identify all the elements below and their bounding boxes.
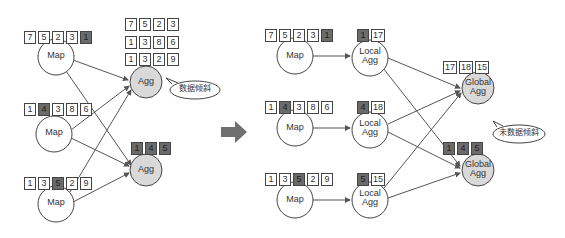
label-line: Agg	[461, 169, 495, 178]
count-cell: 15	[371, 173, 385, 186]
key-cell: 5	[357, 173, 369, 186]
label-line: Agg	[352, 198, 388, 207]
record-cell: 3	[293, 101, 305, 114]
after-map-1-label: Map	[277, 51, 313, 60]
label-line: Agg	[352, 56, 388, 65]
before-map-1-records: 7 5 2 3 1	[24, 31, 92, 44]
record-cell: 2	[153, 18, 165, 31]
no-skew-callout-text: 未数据倾斜	[495, 129, 543, 137]
key-cell: 5	[471, 142, 483, 155]
record-cell: 1	[265, 173, 277, 186]
before-map-2-label: Map	[36, 128, 72, 137]
record-cell-skewed: 1	[131, 142, 143, 155]
record-cell: 9	[167, 53, 179, 66]
after-map-1-records: 7 5 2 3 1	[265, 29, 333, 42]
record-cell: 8	[66, 103, 78, 116]
record-cell: 3	[279, 173, 291, 186]
label-line: Agg	[352, 128, 388, 137]
after-map-3-records: 1 3 5 2 9	[265, 173, 333, 186]
key-cell: 1	[357, 29, 369, 42]
before-agg-1-row-3: 1 3 2 9	[125, 53, 179, 66]
local-agg-3-label: LocalAgg	[352, 189, 388, 208]
count-cell: 17	[371, 29, 385, 42]
record-cell: 3	[38, 177, 50, 190]
key-cell: 4	[457, 142, 469, 155]
record-cell-skewed: 5	[159, 142, 171, 155]
count-cell: 15	[475, 61, 489, 74]
record-cell: 1	[24, 177, 36, 190]
record-cell: 9	[321, 173, 333, 186]
before-agg-1-row-2: 1 3 8 6	[125, 36, 179, 49]
record-cell: 1	[125, 36, 137, 49]
record-cell: 5	[139, 18, 151, 31]
record-cell: 7	[265, 29, 277, 42]
before-map-1-label: Map	[38, 51, 74, 60]
record-cell: 3	[307, 29, 319, 42]
global-agg-2-result: 1 4 5	[443, 142, 483, 155]
record-cell: 7	[24, 31, 36, 44]
global-agg-2-label: GlobalAgg	[461, 160, 495, 179]
count-cell: 17	[443, 61, 457, 74]
record-cell: 2	[66, 177, 78, 190]
record-cell: 2	[293, 29, 305, 42]
before-map-2-records: 1 4 3 8 6	[24, 103, 92, 116]
local-agg-2-label: LocalAgg	[352, 119, 388, 138]
record-cell: 8	[153, 36, 165, 49]
record-cell: 8	[307, 101, 319, 114]
global-agg-1-result: 17 18 15	[443, 61, 489, 74]
record-cell: 9	[80, 177, 92, 190]
record-cell: 2	[307, 173, 319, 186]
record-cell: 1	[24, 103, 36, 116]
local-agg-1-label: LocalAgg	[352, 47, 388, 66]
before-map-3-records: 1 3 5 2 9	[24, 177, 92, 190]
record-cell: 5	[279, 29, 291, 42]
key-cell: 1	[443, 142, 455, 155]
key-cell: 4	[357, 101, 369, 114]
after-map-3-label: Map	[277, 195, 313, 204]
record-cell: 6	[80, 103, 92, 116]
local-agg-2-result: 4 18	[357, 101, 385, 114]
record-cell-skewed: 4	[38, 103, 50, 116]
count-cell: 18	[371, 101, 385, 114]
record-cell-skewed: 4	[279, 101, 291, 114]
transition-arrow-icon	[221, 121, 247, 143]
record-cell-skewed: 1	[321, 29, 333, 42]
before-agg-2-label: Agg	[130, 165, 162, 174]
record-cell: 6	[167, 36, 179, 49]
record-cell-skewed: 1	[80, 31, 92, 44]
label-line: Agg	[461, 87, 495, 96]
before-agg-2-row-1: 1 4 5	[131, 142, 171, 155]
local-agg-3-result: 5 15	[357, 173, 385, 186]
after-global-edges	[383, 58, 461, 198]
record-cell: 1	[265, 101, 277, 114]
global-agg-1-label: GlobalAgg	[461, 78, 495, 97]
local-agg-1-result: 1 17	[357, 29, 385, 42]
record-cell: 3	[167, 18, 179, 31]
record-cell: 3	[139, 53, 151, 66]
record-cell-skewed: 5	[52, 177, 64, 190]
after-map-2-label: Map	[277, 123, 313, 132]
record-cell: 3	[52, 103, 64, 116]
record-cell: 1	[125, 53, 137, 66]
record-cell: 5	[38, 31, 50, 44]
record-cell-skewed: 5	[293, 173, 305, 186]
before-map-3-label: Map	[38, 198, 74, 207]
record-cell: 6	[321, 101, 333, 114]
skew-callout-text: 数据倾斜	[172, 85, 218, 93]
count-cell: 18	[459, 61, 473, 74]
before-agg-1-label: Agg	[130, 77, 162, 86]
record-cell: 7	[125, 18, 137, 31]
record-cell: 3	[66, 31, 78, 44]
record-cell: 2	[153, 53, 165, 66]
record-cell: 2	[52, 31, 64, 44]
record-cell-skewed: 4	[145, 142, 157, 155]
record-cell: 3	[139, 36, 151, 49]
before-agg-1-row-1: 7 5 2 3	[125, 18, 179, 31]
after-map-2-records: 1 4 3 8 6	[265, 101, 333, 114]
